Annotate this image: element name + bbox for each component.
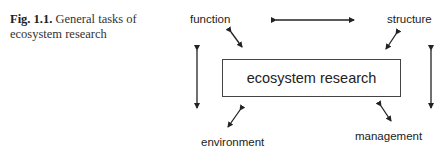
arrow-function-center: [231, 32, 242, 47]
arrow-structure-center: [386, 34, 396, 49]
arrow-management-center: [381, 106, 391, 121]
connection-arrows: [0, 0, 440, 151]
arrow-environment-center: [228, 110, 240, 127]
